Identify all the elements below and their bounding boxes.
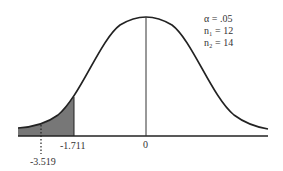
n2-annotation: n₂ = 14 bbox=[204, 37, 233, 48]
test-statistic-label: -3.519 bbox=[30, 156, 56, 167]
alpha-annotation: α = .05 bbox=[204, 13, 232, 24]
zero-label: 0 bbox=[143, 139, 148, 150]
t-distribution-plot bbox=[0, 0, 283, 171]
n1-annotation: n₁ = 12 bbox=[204, 25, 233, 36]
critical-value-label: -1.711 bbox=[60, 140, 85, 151]
rejection-region bbox=[18, 97, 74, 136]
